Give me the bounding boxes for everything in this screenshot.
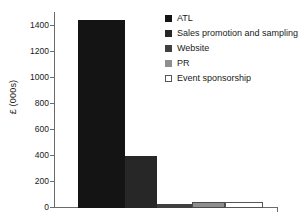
legend-item: Website <box>165 41 298 55</box>
legend-item: Event sponsorship <box>165 71 298 85</box>
y-axis-tick: 200 <box>0 176 60 187</box>
y-axis-tick-label: 800 <box>35 98 49 109</box>
y-axis-tick-label: 0 <box>44 202 49 213</box>
bar-event-sponsorship <box>225 202 263 209</box>
bar-atl <box>78 20 125 209</box>
y-axis-tick: 800 <box>0 98 60 109</box>
y-axis-tick: 0 <box>0 202 60 213</box>
legend-item: PR <box>165 56 298 70</box>
y-axis-tick: 1000 <box>0 72 60 83</box>
y-axis-tick-label: 1000 <box>30 72 49 83</box>
legend-swatch-icon <box>165 45 172 52</box>
bar-website <box>157 204 192 208</box>
y-axis-tick: 1200 <box>0 46 60 57</box>
y-axis-tick-label: 1400 <box>30 20 49 31</box>
bar-chart: £ (000s) 0200400600800100012001400 ATLSa… <box>0 0 307 223</box>
legend-swatch-icon <box>165 15 172 22</box>
y-axis-tick-label: 400 <box>35 150 49 161</box>
legend-item-label: PR <box>177 58 190 68</box>
legend-swatch-icon <box>165 60 172 67</box>
legend-item-label: ATL <box>177 13 193 23</box>
legend-item-label: Event sponsorship <box>177 73 251 83</box>
legend-item-label: Sales promotion and sampling <box>177 28 298 38</box>
y-axis-tick-label: 200 <box>35 176 49 187</box>
legend-item-label: Website <box>177 43 209 53</box>
y-axis-tick: 1400 <box>0 20 60 31</box>
y-axis-tick-label: 1200 <box>30 46 49 57</box>
y-axis-tick: 400 <box>0 150 60 161</box>
chart-legend: ATLSales promotion and samplingWebsitePR… <box>165 11 298 86</box>
y-axis-tick: 600 <box>0 124 60 135</box>
legend-swatch-icon <box>165 30 172 37</box>
legend-item: Sales promotion and sampling <box>165 26 298 40</box>
legend-item: ATL <box>165 11 298 25</box>
y-axis-tick-label: 600 <box>35 124 49 135</box>
bar-pr <box>192 202 225 209</box>
bar-sales-promotion-and-sampling <box>125 156 157 208</box>
legend-swatch-icon <box>165 75 172 82</box>
